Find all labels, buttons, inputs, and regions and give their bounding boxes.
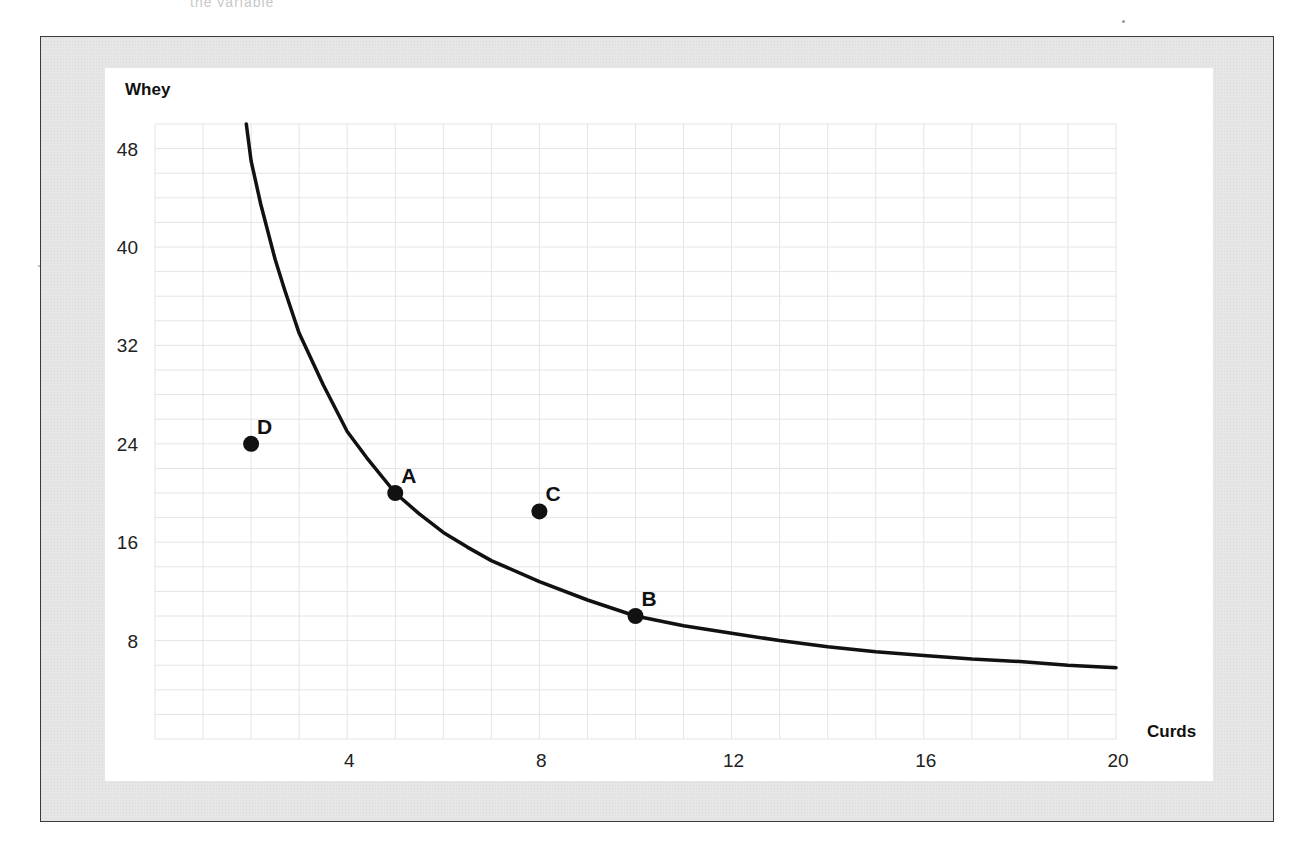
x-axis-title: Curds (1147, 722, 1196, 741)
y-tick-label: 32 (117, 335, 138, 356)
point-d-label: D (257, 415, 272, 438)
point-a-label: A (401, 464, 416, 487)
x-tick-label: 16 (915, 750, 936, 771)
y-tick-label: 8 (127, 631, 138, 652)
y-tick-label: 40 (117, 237, 138, 258)
x-axis-ticks: 48121620 (344, 750, 1129, 771)
y-tick-label: 48 (117, 139, 138, 160)
curve-line (246, 124, 1116, 668)
point-c-label: C (545, 482, 560, 505)
y-tick-label: 16 (117, 532, 138, 553)
y-axis-title: Whey (125, 80, 171, 99)
x-tick-label: 20 (1107, 750, 1128, 771)
point-a-marker (387, 485, 403, 501)
point-d-marker (243, 436, 259, 452)
point-c-marker (531, 503, 547, 519)
chart-plot: Whey Curds 48121620 81624324048 DACB (0, 0, 1308, 853)
data-points: DACB (243, 415, 657, 624)
y-axis-ticks: 81624324048 (117, 139, 139, 652)
point-b-marker (628, 608, 644, 624)
point-b-label: B (642, 587, 657, 610)
y-tick-label: 24 (117, 434, 139, 455)
x-tick-label: 8 (536, 750, 547, 771)
x-tick-label: 12 (723, 750, 744, 771)
gridlines (155, 124, 1116, 739)
x-tick-label: 4 (344, 750, 355, 771)
